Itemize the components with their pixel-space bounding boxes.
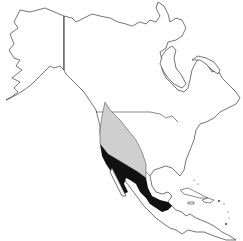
bahamas-island-1 bbox=[193, 179, 194, 180]
jamaica-island bbox=[188, 202, 194, 204]
antilles-island-2 bbox=[227, 211, 228, 212]
trinidad-island bbox=[225, 223, 227, 225]
puerto-rico-island bbox=[218, 200, 220, 202]
antilles-island-1 bbox=[223, 203, 224, 204]
cuba-island bbox=[180, 188, 208, 198]
alaska-landmass bbox=[6, 8, 64, 100]
range-map bbox=[0, 0, 243, 241]
antilles-island-3 bbox=[228, 217, 229, 218]
bahamas-island-2 bbox=[197, 183, 198, 184]
hispaniola-island bbox=[202, 198, 214, 203]
